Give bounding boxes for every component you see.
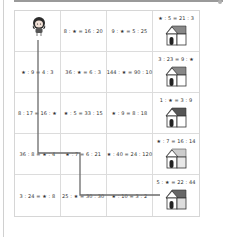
- equation: ★ : 9 = 8 : 18: [112, 110, 148, 116]
- equation: ★ : 10 = 3 : 2: [112, 193, 148, 199]
- house-equation: 1 : ★ = 3 : 9: [160, 97, 192, 103]
- house-icon: [164, 106, 188, 128]
- house-cell[interactable]: ★ : 5 = 21 : 3: [153, 11, 199, 52]
- house-equation: ★ : 7 = 16 : 14: [157, 138, 196, 144]
- house-icon: [164, 147, 188, 169]
- grid-cell[interactable]: 36 : ★ = 6 : 3: [61, 52, 107, 93]
- grid-cell[interactable]: ★ : 40 = 24 : 120: [107, 134, 154, 175]
- house-cell[interactable]: 3 : 23 = 9 : ★: [153, 52, 199, 93]
- house-icon: [164, 188, 188, 210]
- grid-cell[interactable]: ★ : 10 = 3 : 2: [107, 175, 154, 216]
- grid-cell[interactable]: ★ : 9 = 4 : 3: [15, 52, 61, 93]
- equation: 9 : ★ = 5 : 25: [112, 28, 148, 34]
- equation: 3 : 24 = ★ : 8: [20, 193, 56, 199]
- top-scrollbar[interactable]: [14, 0, 223, 2]
- equation: 36 : ★ = 6 : 3: [65, 69, 101, 75]
- grid-cell[interactable]: 9 : ★ = 5 : 25: [107, 11, 154, 52]
- house-icon: [164, 24, 188, 46]
- house-cell[interactable]: 5 : ★ = 22 : 44: [153, 175, 199, 216]
- grid-cell[interactable]: 8 : ★ = 16 : 20: [61, 11, 107, 52]
- equation: 36 : 8 = ★ : 4: [20, 151, 56, 157]
- girl-character-icon: [30, 16, 48, 40]
- house-equation: ★ : 5 = 21 : 3: [158, 15, 194, 21]
- left-margin-line: [3, 0, 4, 237]
- equation: 8 : 17 = 16 : ★: [18, 110, 57, 116]
- house-equation: 5 : ★ = 22 : 44: [157, 179, 196, 185]
- grid-cell[interactable]: 8 : 17 = 16 : ★: [15, 93, 61, 134]
- equation: 8 : ★ = 16 : 20: [64, 28, 103, 34]
- equation: 144 : ★ = 90 : 10: [107, 69, 153, 75]
- grid-cell[interactable]: 3 : 24 = ★ : 8: [15, 175, 61, 216]
- maze-grid: 8 : ★ = 16 : 20 9 : ★ = 5 : 25 ★ : 5 = 2…: [14, 10, 200, 217]
- grid-cell[interactable]: ★ : 7 = 6 : 21: [61, 134, 107, 175]
- house-icon: [164, 65, 188, 87]
- house-cell[interactable]: ★ : 7 = 16 : 14: [153, 134, 199, 175]
- equation: ★ : 5 = 33 : 15: [64, 110, 103, 116]
- grid-cell[interactable]: ★ : 5 = 33 : 15: [61, 93, 107, 134]
- grid-cell[interactable]: 144 : ★ = 90 : 10: [107, 52, 154, 93]
- equation: ★ : 40 = 24 : 120: [107, 151, 153, 157]
- equation: ★ : 7 = 6 : 21: [65, 151, 101, 157]
- grid-cell[interactable]: ★ : 9 = 8 : 18: [107, 93, 154, 134]
- house-equation: 3 : 23 = 9 : ★: [158, 56, 194, 62]
- grid-cell[interactable]: 36 : 8 = ★ : 4: [15, 134, 61, 175]
- house-cell[interactable]: 1 : ★ = 3 : 9: [153, 93, 199, 134]
- equation: 25 : ★ = 30 : 30: [62, 193, 104, 199]
- grid-cell[interactable]: 25 : ★ = 30 : 30: [61, 175, 107, 216]
- equation: ★ : 9 = 4 : 3: [21, 69, 53, 75]
- scrollbar-knob[interactable]: [218, 0, 222, 4]
